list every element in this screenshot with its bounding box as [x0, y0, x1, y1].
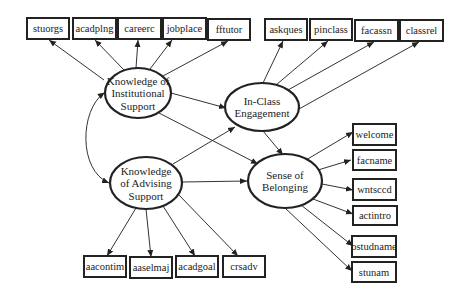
latent-kis: Knowledge ofInstitutionalSupport	[105, 68, 171, 118]
indicator-classrel: classrel	[400, 20, 443, 41]
latent-label-line: Sense of	[266, 169, 304, 181]
loading-arrow	[288, 42, 374, 90]
loading-arrow	[178, 194, 238, 256]
indicator-facname: facname	[353, 150, 396, 170]
latent-label-line: Support	[129, 190, 164, 202]
latent-kas: Knowledgeof AdvisingSupport	[110, 157, 182, 209]
indicator-label: fftutor	[216, 24, 243, 35]
observed-indicators: stuorgsacadplngcareercjobplacefftutorask…	[27, 18, 443, 282]
indicator-acadgoal: acadgoal	[176, 256, 218, 277]
loading-arrow	[318, 160, 351, 170]
indicator-stunam: stunam	[352, 262, 396, 282]
indicator-facassn: facassn	[355, 20, 398, 41]
indicator-label: aacontim	[86, 261, 124, 272]
indicator-jobplace: jobplace	[163, 18, 206, 39]
indicator-label: facassn	[361, 25, 393, 36]
indicator-label: pinclass	[314, 24, 348, 35]
indicator-acadplng: acadplng	[73, 18, 116, 39]
loading-arrow	[313, 199, 353, 214]
latent-label-line: In-Class	[244, 95, 281, 107]
indicator-label: stuorgs	[33, 23, 63, 34]
loading-arrow	[263, 41, 283, 83]
latent-label-line: Belonging	[262, 181, 308, 193]
loading-arrow	[163, 41, 228, 76]
latent-sob: Sense ofBelonging	[248, 154, 322, 208]
latent-label-line: Knowledge of	[107, 75, 170, 87]
indicator-stuorgs: stuorgs	[27, 18, 69, 39]
latent-label-line: of Advising	[120, 177, 172, 189]
indicator-label: askques	[269, 24, 302, 35]
covariance-double-arrow	[86, 93, 109, 183]
loading-arrow	[299, 42, 419, 109]
loading-arrow	[306, 132, 353, 160]
sem-path-diagram: stuorgsacadplngcareercjobplacefftutorask…	[0, 0, 468, 296]
indicator-label: acadplng	[76, 23, 115, 34]
indicator-fftutor: fftutor	[208, 19, 250, 40]
structural-arrow	[263, 131, 283, 155]
loading-arrow	[285, 208, 352, 271]
indicator-askques: askques	[265, 19, 307, 40]
indicator-label: stunam	[359, 267, 389, 278]
loading-arrow	[322, 184, 353, 190]
loading-arrow	[136, 40, 138, 68]
indicator-label: ostudname	[351, 241, 397, 252]
latent-ice: In-ClassEngagement	[225, 83, 299, 131]
indicator-label: acadgoal	[178, 261, 215, 272]
covariance-arrow	[86, 93, 109, 183]
indicator-label: aaselmaj	[133, 262, 170, 273]
loading-arrow	[146, 209, 151, 257]
loading-arrow	[49, 40, 104, 80]
latent-label-line: Engagement	[235, 107, 290, 119]
indicator-crsadv: crsadv	[223, 256, 265, 277]
loading-arrow	[150, 40, 172, 69]
latent-label-line: Knowledge	[121, 165, 172, 177]
structural-arrow	[171, 93, 226, 108]
loading-arrow	[95, 40, 124, 70]
indicator-label: classrel	[406, 25, 438, 36]
indicator-pinclass: pinclass	[310, 19, 352, 40]
structural-arrow	[173, 127, 235, 164]
indicator-label: careerc	[124, 23, 155, 34]
indicator-wntsccd: wntsccd	[353, 179, 396, 200]
indicator-aacontim: aacontim	[84, 256, 126, 277]
latent-label-line: Support	[121, 100, 156, 112]
structural-arrow	[182, 181, 247, 182]
loading-arrow	[276, 41, 328, 85]
indicator-label: wntsccd	[357, 184, 392, 195]
indicator-label: welcome	[356, 129, 394, 140]
indicator-aaselmaj: aaselmaj	[130, 257, 172, 278]
indicator-welcome: welcome	[353, 124, 396, 145]
indicator-careerc: careerc	[118, 18, 161, 39]
indicator-label: crsadv	[230, 261, 258, 272]
indicator-label: jobplace	[166, 23, 203, 34]
indicator-label: facname	[357, 155, 393, 166]
loading-arrow	[163, 206, 195, 256]
loading-arrow	[107, 208, 136, 256]
indicator-actintro: actintro	[353, 206, 397, 225]
latent-label-line: Institutional	[111, 87, 164, 99]
indicator-ostudname: ostudname	[351, 236, 397, 257]
indicator-label: actintro	[359, 210, 391, 221]
